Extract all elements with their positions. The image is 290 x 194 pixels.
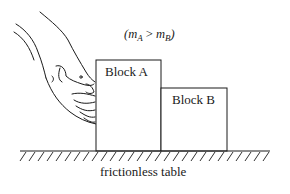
block-a-label: Block A (105, 64, 148, 80)
mass-b-symbol: m (156, 27, 165, 41)
table-label: frictionless table (100, 164, 186, 180)
mass-a-symbol: m (128, 27, 137, 41)
physics-diagram: (mA > mB) Block A Block B frictionless t… (0, 0, 290, 194)
block-b-label: Block B (172, 92, 215, 108)
paren-close: ) (171, 27, 175, 41)
greater-than-operator: > (143, 27, 156, 41)
table-hatching (20, 152, 269, 161)
hand-icon (14, 12, 96, 124)
mass-relation-label: (mA > mB) (124, 27, 175, 43)
